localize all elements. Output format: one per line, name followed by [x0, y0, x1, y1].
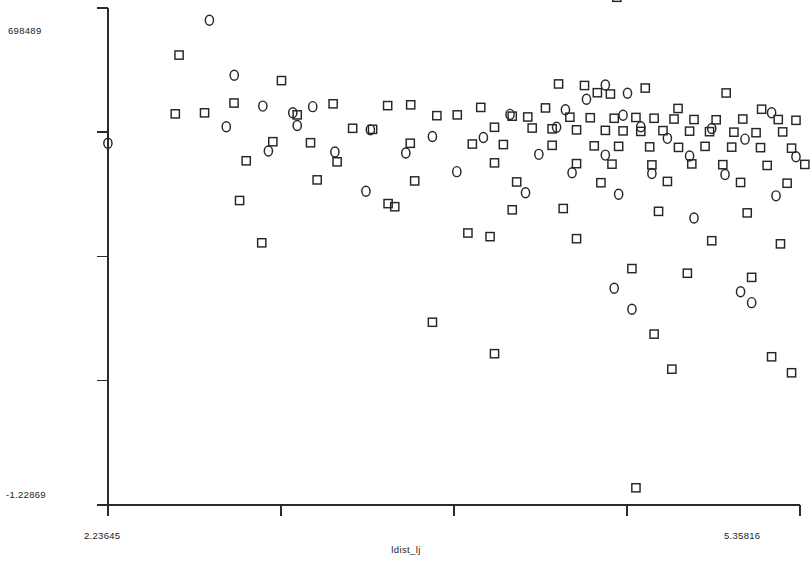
data-point-circle [309, 102, 317, 112]
x-axis-min-label: 2.23645 [84, 530, 120, 541]
data-point-square [171, 110, 179, 118]
data-point-square [739, 115, 747, 123]
data-point-circle [601, 80, 609, 90]
data-point-circle [610, 283, 618, 293]
data-point-square [801, 160, 809, 168]
data-point-square [690, 115, 698, 123]
data-point-circle [264, 146, 272, 156]
data-point-square [406, 139, 414, 147]
data-point-square [486, 233, 494, 241]
data-point-square [593, 89, 601, 97]
data-point-square [580, 81, 588, 89]
data-point-square [705, 128, 713, 136]
data-point-circle [601, 150, 609, 160]
data-point-square [428, 318, 436, 326]
data-point-square [601, 126, 609, 134]
data-point-circle [453, 167, 461, 177]
data-point-circle [619, 110, 627, 120]
data-point-square [333, 158, 341, 166]
data-point-square [230, 99, 238, 107]
data-point-square [728, 143, 736, 151]
data-point-circle [293, 120, 301, 130]
data-point-circle [690, 213, 698, 223]
data-point-square [646, 143, 654, 151]
data-point-circle [582, 94, 590, 104]
data-point-square [632, 484, 640, 492]
data-point-square [464, 229, 472, 237]
data-point-circle [259, 101, 267, 111]
data-point-square [730, 128, 738, 136]
data-point-square [668, 365, 676, 373]
data-point-circle [708, 124, 716, 134]
data-point-square [608, 160, 616, 168]
data-point-square [712, 116, 720, 124]
data-point-square [792, 116, 800, 124]
data-point-square [490, 159, 498, 167]
data-point-circle [535, 149, 543, 159]
data-point-square [242, 157, 250, 165]
data-point-square [619, 127, 627, 135]
data-point-square [468, 140, 476, 148]
data-point-square [748, 273, 756, 281]
data-point-square [632, 113, 640, 121]
data-point-circle [736, 287, 744, 297]
data-point-square [774, 115, 782, 123]
data-point-square [586, 114, 594, 122]
data-point-circle [648, 168, 656, 178]
data-point-square [650, 114, 658, 122]
data-point-square [269, 138, 277, 146]
data-point-circle [721, 169, 729, 179]
data-point-square [235, 196, 243, 204]
data-point-square [499, 140, 507, 148]
y-axis-max-label: 698489 [8, 25, 42, 36]
data-point-square [615, 142, 623, 150]
data-point-circle [222, 122, 230, 132]
data-point-square [349, 124, 357, 132]
data-point-square [313, 176, 321, 184]
data-point-square [407, 101, 415, 109]
data-point-square [663, 177, 671, 185]
data-point-square [756, 144, 764, 152]
data-point-square [758, 105, 766, 113]
data-point-square [528, 124, 536, 132]
data-point-square [763, 161, 771, 169]
data-point-square [628, 264, 636, 272]
x-axis-title: ldist_lj [0, 544, 812, 555]
data-point-square [477, 103, 485, 111]
data-point-square [685, 127, 693, 135]
data-point-square [411, 177, 419, 185]
data-point-square [597, 179, 605, 187]
y-axis-ticks [97, 8, 108, 505]
data-point-square [752, 129, 760, 137]
data-point-circle [521, 188, 529, 198]
data-point-circle [362, 186, 370, 196]
data-point-square [670, 115, 678, 123]
data-point-square [783, 179, 791, 187]
data-point-square [513, 178, 521, 186]
data-point-square [524, 113, 532, 121]
data-point-circle [748, 298, 756, 308]
data-point-circle [623, 88, 631, 98]
data-point-square [277, 76, 285, 84]
data-point-square [743, 209, 751, 217]
data-point-square [572, 126, 580, 134]
data-point-circle [506, 109, 514, 119]
data-point-square [554, 80, 562, 88]
data-point-circle [741, 134, 749, 144]
data-point-circle [402, 148, 410, 158]
data-point-square [306, 139, 314, 147]
axes-group [108, 8, 800, 505]
data-point-circle [428, 132, 436, 142]
data-point-circle [615, 189, 623, 199]
data-point-square [572, 235, 580, 243]
data-point-square [384, 102, 392, 110]
data-point-square [674, 143, 682, 151]
data-point-square [453, 111, 461, 119]
data-point-square [329, 100, 337, 108]
data-point-square [175, 51, 183, 59]
data-point-square [368, 125, 376, 133]
data-point-square [736, 178, 744, 186]
data-point-square [433, 112, 441, 120]
data-point-circle [230, 70, 238, 80]
data-point-square [701, 142, 709, 150]
